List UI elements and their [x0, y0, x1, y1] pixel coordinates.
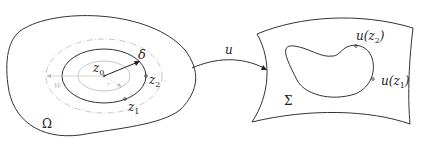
- outer-radius-label: W: [54, 82, 62, 90]
- diagram-canvas: W r z0 δ z2 z1 Ω u u(z2) u(z1) Σ: [0, 0, 423, 145]
- point-z2-label: z2: [148, 73, 160, 89]
- point-u-z2: [355, 45, 358, 48]
- outer-radius-arrowhead: [46, 74, 51, 78]
- inner-radius-label: r: [107, 80, 111, 87]
- center-label: z0: [92, 61, 104, 77]
- point-z1-label: z1: [127, 100, 139, 116]
- point-u-z1: [372, 78, 375, 81]
- point-u-z2-label: u(z2): [356, 29, 385, 45]
- point-u-z1-label: u(z1): [381, 74, 410, 90]
- sigma-label: Σ: [284, 94, 292, 108]
- image-curve: [286, 45, 374, 97]
- delta-label: δ: [138, 47, 146, 62]
- omega-label: Ω: [42, 117, 52, 131]
- map-arrow: [192, 60, 264, 68]
- inner-radius-arrowhead: [117, 83, 122, 87]
- sigma-boundary: [252, 18, 413, 124]
- map-label: u: [225, 43, 233, 57]
